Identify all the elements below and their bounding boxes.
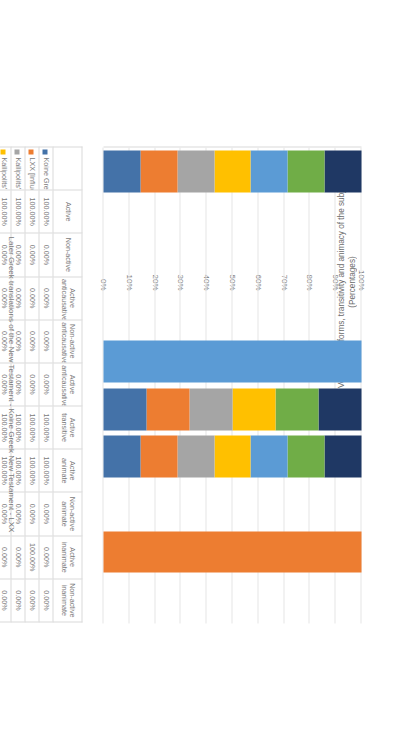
bar-segment[interactable] xyxy=(232,388,275,430)
bar-slot xyxy=(103,195,361,243)
bar-segment[interactable] xyxy=(140,150,177,192)
bar-segment[interactable] xyxy=(214,150,251,192)
bar-series-container xyxy=(103,147,361,623)
table-column-header: Non-active inanimate xyxy=(53,578,82,621)
table-cell: 0.00% xyxy=(39,578,53,621)
table-cell: 100.00% xyxy=(39,406,53,449)
bar-stack xyxy=(103,531,361,573)
bar-slot xyxy=(103,290,361,338)
table-cell: 100.00% xyxy=(39,449,53,492)
table-cell: 0.00% xyxy=(39,492,53,535)
table-column-header: Active anticausative xyxy=(53,276,82,319)
bar-segment[interactable] xyxy=(324,435,361,477)
bar-segment[interactable] xyxy=(140,435,177,477)
table-cell: 0.00% xyxy=(25,319,39,362)
table-row: Koine Greek New Testament [Source text]1… xyxy=(39,147,53,622)
bar-segment[interactable] xyxy=(103,150,140,192)
bar-stack xyxy=(103,150,361,192)
bar-segment[interactable] xyxy=(250,150,287,192)
table-cell: 100.00% xyxy=(25,406,39,449)
bar-stack xyxy=(103,340,361,382)
bar-slot xyxy=(103,147,361,195)
table-column-header: Active xyxy=(53,190,82,233)
table-cell: 0.00% xyxy=(39,233,53,276)
bar-segment[interactable] xyxy=(103,340,361,382)
bar-slot xyxy=(103,480,361,528)
bar-stack xyxy=(103,435,361,477)
table-cell: 0.00% xyxy=(39,319,53,362)
legend-swatch-icon xyxy=(0,149,5,154)
table-corner-cell xyxy=(53,147,82,190)
bar-segment[interactable] xyxy=(103,531,361,573)
table-column-header: Non-active animate xyxy=(53,492,82,535)
table-cell: 0.00% xyxy=(25,578,39,621)
bar-slot xyxy=(103,528,361,576)
plot-grid xyxy=(103,146,361,623)
table-cell: 0.00% xyxy=(39,535,53,578)
table-cell: 100.00% xyxy=(39,190,53,233)
bar-slot xyxy=(103,433,361,481)
plot-area: Voice verbal forms, transitivity and ani… xyxy=(82,146,375,622)
bar-segment[interactable] xyxy=(214,435,251,477)
legend-entry-label: LXX [Influence on the source and target … xyxy=(27,157,36,190)
bar-segment[interactable] xyxy=(146,388,189,430)
table-cell: 100.00% xyxy=(25,535,39,578)
table-cell: 0.00% xyxy=(25,492,39,535)
table-column-header: Active anticausative xyxy=(53,362,82,405)
legend-swatch-icon xyxy=(28,149,33,154)
screenshot-frame: Voice verbal forms, transitivity and ani… xyxy=(0,0,395,731)
table-row: LXX [Influence on the source and target … xyxy=(25,147,39,622)
bar-segment[interactable] xyxy=(177,435,214,477)
table-column-header: Non-active anticausative xyxy=(53,319,82,362)
table-cell: 0.00% xyxy=(25,362,39,405)
bar-segment[interactable] xyxy=(103,435,140,477)
table-header-row: ActiveNon-activeActive anticausativeNon-… xyxy=(53,147,82,622)
table-cell: 0.00% xyxy=(25,233,39,276)
bar-segment[interactable] xyxy=(177,150,214,192)
bar-slot xyxy=(103,575,361,623)
bar-slot xyxy=(103,242,361,290)
table-cell: 0.00% xyxy=(39,362,53,405)
table-cell: 100.00% xyxy=(25,190,39,233)
table-cell: 0.00% xyxy=(25,276,39,319)
table-column-header: Active transitive xyxy=(53,406,82,449)
table-column-header: Non-active xyxy=(53,233,82,276)
bar-segment[interactable] xyxy=(275,388,318,430)
bar-segment[interactable] xyxy=(318,388,361,430)
bar-segment[interactable] xyxy=(287,150,324,192)
bar-segment[interactable] xyxy=(103,388,146,430)
legend-swatch-icon xyxy=(42,149,47,154)
legend-entry-label: Koine Greek New Testament [Source text] xyxy=(41,157,50,190)
table-cell: 0.00% xyxy=(39,276,53,319)
legend-entry[interactable]: LXX [Influence on the source and target … xyxy=(25,147,39,190)
chart-title: Later Greek translations of the New Test… xyxy=(6,146,15,622)
bar-segment[interactable] xyxy=(189,388,232,430)
bar-slot xyxy=(103,337,361,385)
table-head: ActiveNon-activeActive anticausativeNon-… xyxy=(53,147,82,622)
bar-segment[interactable] xyxy=(324,150,361,192)
table-column-header: Active inanimate xyxy=(53,535,82,578)
legend-entry[interactable]: Koine Greek New Testament [Source text] xyxy=(39,147,53,190)
bar-segment[interactable] xyxy=(287,435,324,477)
table-column-header: Active animate xyxy=(53,449,82,492)
bar-segment[interactable] xyxy=(250,435,287,477)
bar-stack xyxy=(103,388,361,430)
bar-slot xyxy=(103,385,361,433)
table-cell: 100.00% xyxy=(25,449,39,492)
chart-canvas: Voice verbal forms, transitivity and ani… xyxy=(0,0,395,731)
